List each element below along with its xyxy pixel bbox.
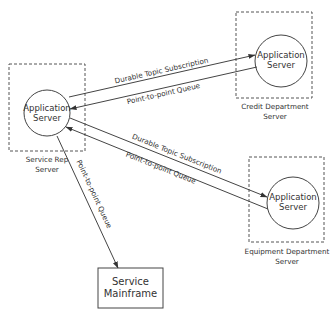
edge-rep-to-mainframe-arrow <box>57 136 118 268</box>
credit-circle-label-2: Server <box>267 60 295 70</box>
equipment-department-server-node: Application Server Equipment Department … <box>245 157 330 266</box>
service-mainframe-node: Service Mainframe <box>98 268 163 308</box>
service-rep-circle-label-2: Server <box>33 113 61 123</box>
service-rep-caption-2: Server <box>35 165 59 174</box>
service-rep-caption-1: Service Rep <box>26 155 69 164</box>
credit-department-server-node: Application Server Credit Department Ser… <box>236 12 312 121</box>
mainframe-label-2: Mainframe <box>104 288 158 299</box>
equipment-caption-1: Equipment Department <box>245 247 330 256</box>
credit-caption-1: Credit Department <box>241 102 309 111</box>
service-rep-circle-label-1: Application <box>23 103 71 113</box>
credit-circle-label-1: Application <box>257 50 305 60</box>
equipment-circle-label-2: Server <box>279 202 307 212</box>
mainframe-label-1: Service <box>112 276 149 287</box>
equipment-caption-2: Server <box>275 257 299 266</box>
messaging-diagram: Application Server Service Rep Server Ap… <box>0 0 332 316</box>
edge-rep-to-equipment-arrow <box>70 118 267 197</box>
credit-caption-2: Server <box>263 112 287 121</box>
equipment-circle-label-1: Application <box>269 192 317 202</box>
edge-rep-to-mainframe-label: Point-to-point Queue <box>75 158 115 230</box>
